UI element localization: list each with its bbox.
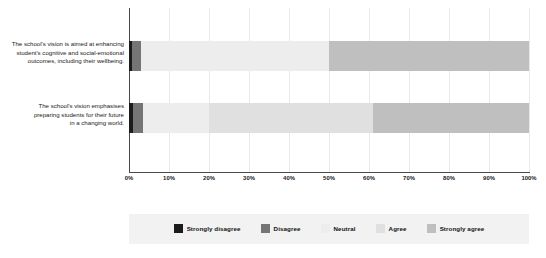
bar-row[interactable] — [129, 41, 529, 71]
gridline-80 — [449, 8, 450, 172]
gridline-40 — [289, 8, 290, 172]
tick-label-90: 90% — [483, 175, 495, 181]
gridline-100 — [529, 8, 530, 172]
tick-label-50: 50% — [323, 175, 335, 181]
tick-label-0: 0% — [125, 175, 134, 181]
legend-label: Strongly agree — [440, 225, 485, 232]
gridline-90 — [489, 8, 490, 172]
chart-title — [129, 0, 529, 2]
plot-area — [129, 8, 529, 172]
stacked-bar-chart: The school's vision is aimed at enhancin… — [0, 0, 546, 258]
category-label-1-line-0: The school's vision emphasises — [6, 102, 124, 111]
legend-label: Strongly disagree — [187, 225, 241, 232]
legend-label: Neutral — [334, 225, 356, 232]
gridline-30 — [249, 8, 250, 172]
gridlines — [129, 8, 529, 172]
gridline-20 — [209, 8, 210, 172]
gridline-10 — [169, 8, 170, 172]
gridline-0 — [129, 8, 130, 172]
tick-label-30: 30% — [243, 175, 255, 181]
bar-segment-disagree[interactable] — [132, 41, 141, 71]
bar-row[interactable] — [129, 103, 529, 133]
legend-swatch-icon — [376, 224, 385, 233]
category-label-0-line-1: student's cognitive and social-emotional — [6, 49, 124, 58]
legend-item[interactable]: Neutral — [321, 224, 356, 233]
bar-segment-disagree[interactable] — [133, 103, 143, 133]
legend-item[interactable]: Strongly disagree — [174, 224, 241, 233]
legend-swatch-icon — [427, 224, 436, 233]
bar-segment-agree[interactable] — [209, 103, 373, 133]
tick-label-100: 100% — [521, 175, 536, 181]
legend: Strongly disagreeDisagreeNeutralAgreeStr… — [129, 214, 529, 244]
bar-segment-neutral[interactable] — [143, 103, 209, 133]
category-label-1-line-1: preparing students for their future — [6, 111, 124, 120]
tick-label-80: 80% — [443, 175, 455, 181]
category-label-0-line-0: The school's vision is aimed at enhancin… — [6, 40, 124, 49]
legend-item[interactable]: Agree — [376, 224, 407, 233]
legend-swatch-icon — [321, 224, 330, 233]
gridline-70 — [409, 8, 410, 172]
tick-label-10: 10% — [163, 175, 175, 181]
category-label-0-line-2: outcomes, including their wellbeing. — [6, 57, 124, 66]
bar-segment-strongly-agree[interactable] — [329, 41, 529, 71]
bar-segment-neutral[interactable] — [141, 41, 329, 71]
gridline-50 — [329, 8, 330, 172]
tick-label-20: 20% — [203, 175, 215, 181]
tick-label-70: 70% — [403, 175, 415, 181]
tick-label-60: 60% — [363, 175, 375, 181]
category-label-1: The school's vision emphasises preparing… — [6, 102, 124, 128]
legend-label: Agree — [389, 225, 407, 232]
gridline-60 — [369, 8, 370, 172]
tick-label-40: 40% — [283, 175, 295, 181]
legend-item[interactable]: Strongly agree — [427, 224, 485, 233]
bar-segment-strongly-agree[interactable] — [373, 103, 529, 133]
x-axis-line — [129, 172, 530, 173]
legend-label: Disagree — [274, 225, 301, 232]
legend-swatch-icon — [174, 224, 183, 233]
category-label-0: The school's vision is aimed at enhancin… — [6, 40, 124, 66]
x-axis-tick-labels: 0%10%20%30%40%50%60%70%80%90%100% — [129, 175, 529, 185]
category-label-1-line-2: in a changing world. — [6, 119, 124, 128]
legend-item[interactable]: Disagree — [261, 224, 301, 233]
legend-swatch-icon — [261, 224, 270, 233]
